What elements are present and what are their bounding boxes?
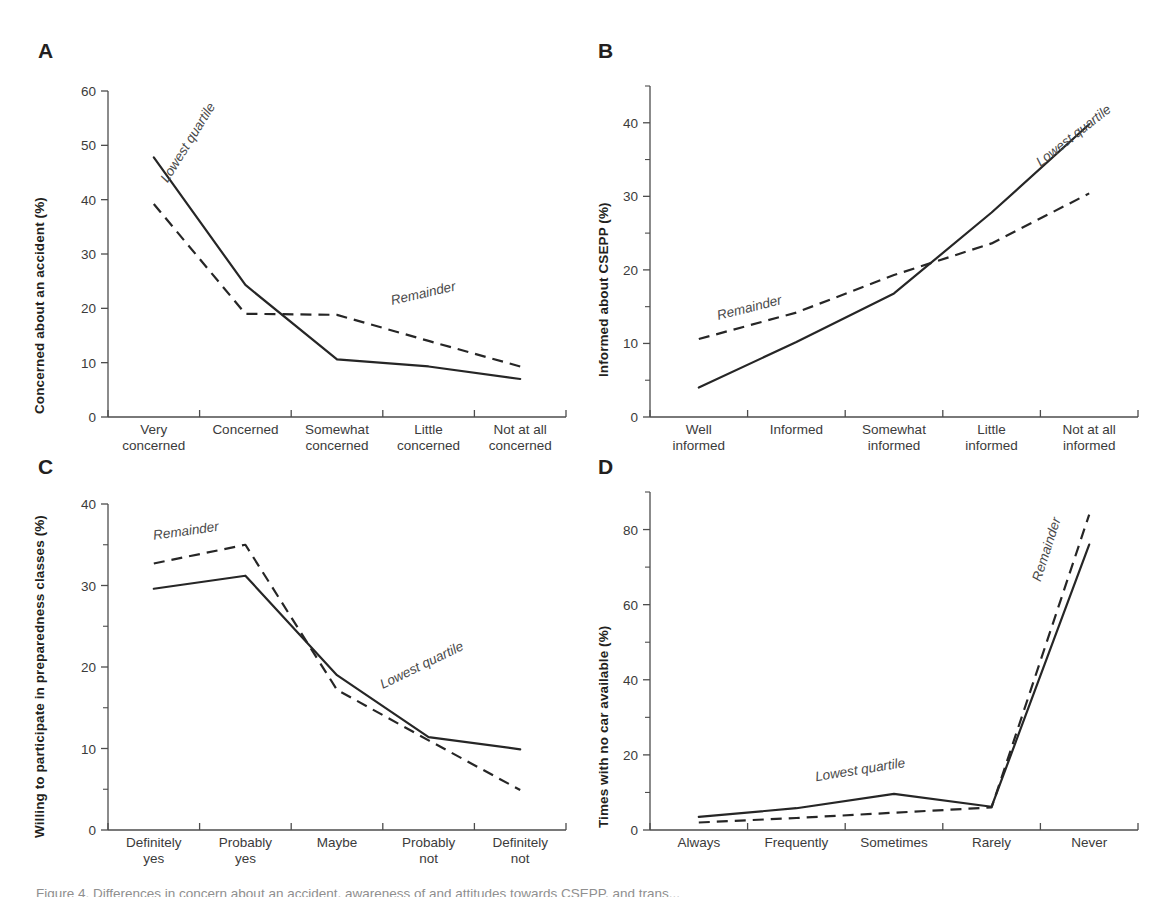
y-tick-label: 0: [88, 410, 96, 425]
y-tick-label: 20: [81, 660, 96, 675]
series-annotation-lowest-quartile: Lowest quartile: [157, 100, 218, 185]
panel-b-plot: 010203040WellinformedInformedSomewhatinf…: [578, 22, 1157, 462]
x-category-label: yes: [143, 851, 164, 866]
panel-c-plot: 010203040DefinitelyyesProbablyyesMaybePr…: [0, 442, 578, 872]
x-category-label: Probably: [219, 835, 273, 850]
y-tick-label: 10: [81, 356, 96, 371]
y-tick-label: 10: [623, 336, 638, 351]
series-annotation-lowest-quartile: Lowest quartile: [378, 638, 466, 691]
y-tick-label: 0: [630, 410, 638, 425]
series-line-remainder: [154, 204, 520, 366]
series-annotation-lowest-quartile: Lowest quartile: [1033, 102, 1114, 170]
y-tick-label: 40: [81, 497, 96, 512]
x-category-label: Probably: [402, 835, 456, 850]
y-tick-label: 40: [623, 116, 638, 131]
x-category-label: Maybe: [317, 835, 358, 850]
x-category-label: Rarely: [972, 835, 1011, 850]
y-tick-label: 20: [623, 748, 638, 763]
y-tick-label: 10: [81, 742, 96, 757]
x-category-label: Not at all: [1063, 422, 1116, 437]
x-category-label: Definitely: [126, 835, 182, 850]
panel-a: A Concerned about an accident (%) 010203…: [0, 22, 578, 462]
x-category-label: Little: [414, 422, 443, 437]
y-tick-label: 20: [81, 301, 96, 316]
x-category-label: Sometimes: [860, 835, 928, 850]
x-category-label: Very: [140, 422, 167, 437]
y-tick-label: 60: [623, 598, 638, 613]
panel-a-plot: 0102030405060VeryconcernedConcernedSomew…: [0, 22, 578, 462]
panel-c: C Willing to participate in preparedness…: [0, 442, 578, 872]
y-tick-label: 80: [623, 523, 638, 538]
series-annotation-remainder: Remainder: [1029, 515, 1064, 583]
panel-b: B Informed about CSEPP (%) 010203040Well…: [578, 22, 1157, 462]
series-annotation-remainder: Remainder: [389, 278, 457, 308]
series-line-remainder: [699, 515, 1089, 823]
series-annotation-remainder: Remainder: [152, 519, 220, 543]
x-category-label: not: [419, 851, 438, 866]
series-line-remainder: [699, 193, 1089, 339]
x-category-label: Never: [1071, 835, 1108, 850]
panel-d-plot: 020406080AlwaysFrequentlySometimesRarely…: [578, 442, 1157, 872]
x-category-label: Definitely: [492, 835, 548, 850]
x-category-label: Somewhat: [305, 422, 369, 437]
x-category-label: Informed: [770, 422, 823, 437]
series-line-lowest-quartile: [154, 157, 520, 379]
series-annotation-lowest-quartile: Lowest quartile: [814, 755, 906, 784]
y-tick-label: 40: [81, 193, 96, 208]
y-tick-label: 60: [81, 84, 96, 99]
y-tick-label: 50: [81, 138, 96, 153]
y-tick-label: 30: [623, 189, 638, 204]
series-line-lowest-quartile: [699, 545, 1089, 817]
y-tick-label: 30: [81, 579, 96, 594]
x-category-label: Always: [677, 835, 720, 850]
x-category-label: Frequently: [765, 835, 829, 850]
x-category-label: yes: [235, 851, 256, 866]
x-category-label: Little: [977, 422, 1006, 437]
x-category-label: Somewhat: [862, 422, 926, 437]
y-tick-label: 30: [81, 247, 96, 262]
series-line-lowest-quartile: [699, 124, 1089, 387]
y-tick-label: 40: [623, 673, 638, 688]
series-line-lowest-quartile: [154, 576, 520, 750]
figure-caption: Figure 4. Differences in concern about a…: [36, 884, 1126, 897]
x-category-label: Well: [686, 422, 712, 437]
x-category-label: not: [511, 851, 530, 866]
x-category-label: Concerned: [212, 422, 278, 437]
y-tick-label: 20: [623, 263, 638, 278]
panel-d: D Times with no car available (%) 020406…: [578, 442, 1157, 872]
y-tick-label: 0: [88, 823, 96, 838]
figure-root: A Concerned about an accident (%) 010203…: [0, 0, 1157, 897]
x-category-label: Not at all: [494, 422, 547, 437]
y-tick-label: 0: [630, 823, 638, 838]
